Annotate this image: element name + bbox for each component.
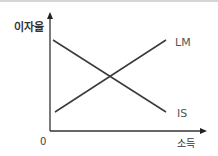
x-axis-label: 소득	[177, 139, 195, 149]
lm-label: LM	[175, 37, 191, 48]
y-axis-arrow-icon	[47, 12, 53, 19]
origin-label: 0	[40, 137, 46, 147]
y-axis-label: 이자율	[14, 22, 44, 33]
is-label: IS	[177, 108, 187, 119]
x-axis-arrow-icon	[200, 128, 207, 134]
y-axis	[47, 12, 53, 131]
x-axis	[50, 128, 207, 134]
